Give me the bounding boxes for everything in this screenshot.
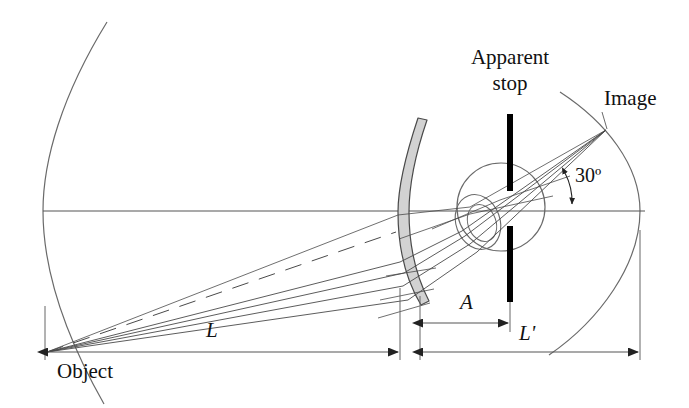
dimension-label-A: A	[460, 292, 473, 313]
optical-ray-diagram-figure: Apparent stop Image Object 30º L A L'	[0, 0, 689, 408]
ray-bundle	[47, 130, 606, 352]
image-label: Image	[604, 88, 656, 109]
apparent-stop-label-line2: stop	[452, 70, 568, 96]
apparent-stop-label-line1: Apparent	[452, 44, 568, 70]
dimension-label-L-prime: L'	[519, 323, 535, 344]
diagram-canvas	[0, 0, 689, 408]
dimension-label-L: L	[206, 320, 218, 341]
image-leader-line	[602, 112, 607, 129]
dashed-construction-ray	[47, 232, 396, 352]
dimension-arrows	[47, 323, 638, 352]
dimension-extension-lines	[45, 230, 640, 360]
image-surface-arc	[549, 92, 640, 355]
apparent-stop-label: Apparent stop	[452, 44, 568, 97]
eye-globe	[448, 163, 545, 256]
object-label: Object	[57, 361, 113, 382]
angle-30-label: 30º	[575, 165, 601, 185]
